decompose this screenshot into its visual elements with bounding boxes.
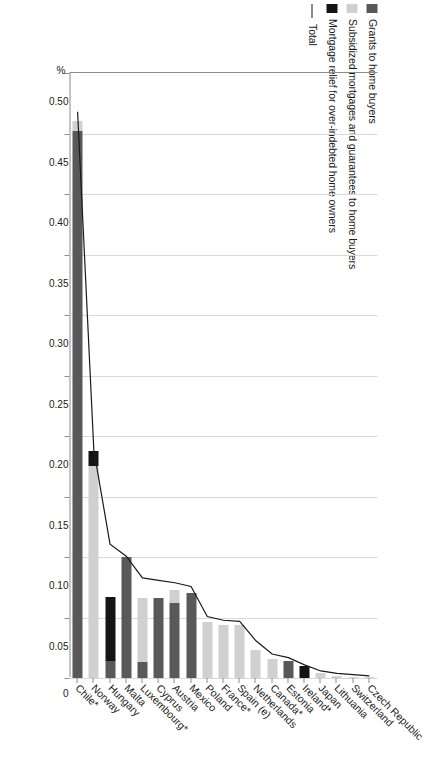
total-line-series: [69, 73, 377, 677]
axis-unit-label: %: [56, 65, 65, 76]
category-tick: [222, 678, 223, 683]
category-tick: [190, 678, 191, 683]
category-tick: [287, 678, 288, 683]
category-tick: [368, 678, 369, 683]
value-axis-tick: [64, 557, 69, 558]
value-axis-tick-label: 0: [62, 688, 68, 699]
value-axis-tick-label: 0.30: [49, 338, 68, 349]
plot-area: 0.500.450.400.350.300.250.200.150.100.05…: [69, 72, 377, 677]
legend-swatch-grants: [366, 4, 377, 13]
category-tick: [125, 678, 126, 683]
value-axis-tick-label: 0.50: [49, 96, 68, 107]
legend-swatch-subsidized-mortgages: [346, 4, 357, 13]
legend-swatch-mortgage-relief: [326, 4, 337, 13]
total-line-path: [77, 112, 369, 676]
value-axis-tick: [64, 194, 69, 195]
category-tick: [254, 678, 255, 683]
category-tick: [173, 678, 174, 683]
category-tick: [319, 678, 320, 683]
value-axis-tick-label: 0.25: [49, 399, 68, 410]
category-tick: [271, 678, 272, 683]
value-axis-tick: [64, 134, 69, 135]
value-axis-tick: [64, 376, 69, 377]
legend-label-total: Total: [306, 24, 317, 46]
category-tick: [206, 678, 207, 683]
category-tick: [76, 678, 77, 683]
value-axis-tick-label: 0.20: [49, 459, 68, 470]
value-axis-tick-label: 0.45: [49, 157, 68, 168]
category-tick: [303, 678, 304, 683]
value-axis-tick: [64, 678, 69, 679]
value-axis-tick-label: 0.40: [49, 217, 68, 228]
value-axis-tick-label: 0.05: [49, 641, 68, 652]
category-tick: [335, 678, 336, 683]
value-axis-tick: [64, 497, 69, 498]
category-tick: [141, 678, 142, 683]
value-axis-tick-label: 0.15: [49, 520, 68, 531]
category-tick: [92, 678, 93, 683]
value-axis-tick: [64, 618, 69, 619]
category-tick: [109, 678, 110, 683]
category-tick: [157, 678, 158, 683]
category-tick: [238, 678, 239, 683]
value-axis-tick: [64, 255, 69, 256]
value-axis-tick-label: 0.35: [49, 278, 68, 289]
value-axis-tick: [64, 436, 69, 437]
category-tick: [352, 678, 353, 683]
value-axis-tick-label: 0.10: [49, 580, 68, 591]
value-axis-tick: [64, 315, 69, 316]
legend-line-total: [311, 4, 312, 18]
